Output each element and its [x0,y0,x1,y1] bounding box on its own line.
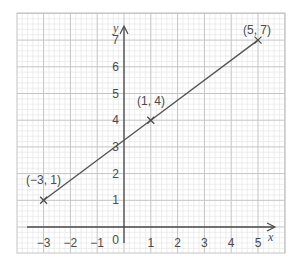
point-label: (1, 4) [137,94,165,108]
x-tick-label: −1 [90,236,104,250]
x-tick-label: 2 [174,236,181,250]
y-tick-label: 5 [112,87,119,101]
point-label: (−3, 1) [26,173,61,187]
origin-label: 0 [112,233,119,247]
major-grid [17,13,285,253]
point-label: (5, 7) [243,23,271,37]
y-tick-label: 1 [112,193,119,207]
x-tick-label: −2 [64,236,78,250]
x-tick-label: 4 [228,236,235,250]
x-tick-label: −3 [37,236,51,250]
y-tick-label: 2 [112,167,119,181]
x-tick-label: 5 [255,236,262,250]
line-chart: xy −3−2−11234512345670 (−3, 1)(1, 4)(5, … [0,0,303,270]
y-tick-label: 7 [112,33,119,47]
x-tick-label: 3 [201,236,208,250]
x-tick-label: 1 [147,236,154,250]
y-tick-label: 6 [112,60,119,74]
y-tick-label: 4 [112,113,119,127]
point-labels: (−3, 1)(1, 4)(5, 7) [26,23,271,187]
x-axis-label: x [267,230,274,244]
